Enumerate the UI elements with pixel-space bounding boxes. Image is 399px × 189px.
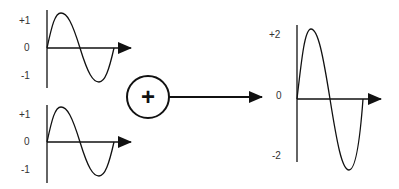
y-label-zero: 0 bbox=[276, 90, 282, 101]
input-plot-1: +1 0 -1 bbox=[19, 10, 131, 88]
y-label-zero: 0 bbox=[24, 136, 30, 147]
superposition-diagram: +1 0 -1 +1 0 -1 + +2 0 -2 bbox=[0, 0, 399, 189]
y-label-top: +1 bbox=[19, 15, 31, 26]
y-label-top: +1 bbox=[19, 109, 31, 120]
y-label-bottom: -1 bbox=[21, 70, 30, 81]
sum-operator: + bbox=[127, 76, 169, 118]
y-label-top: +2 bbox=[269, 29, 281, 40]
input-plot-2: +1 0 -1 bbox=[19, 105, 131, 183]
plus-symbol: + bbox=[141, 83, 155, 110]
output-plot: +2 0 -2 bbox=[269, 25, 381, 170]
y-label-bottom: -1 bbox=[21, 164, 30, 175]
y-label-zero: 0 bbox=[24, 42, 30, 53]
y-label-bottom: -2 bbox=[272, 150, 281, 161]
